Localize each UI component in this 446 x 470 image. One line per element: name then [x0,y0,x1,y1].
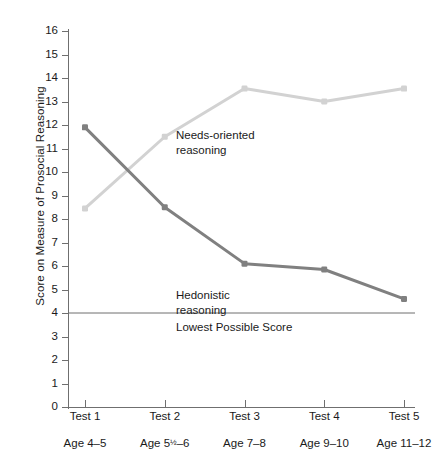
data-point-marker [401,86,407,92]
series-plot [0,0,446,470]
data-point-marker [242,261,248,267]
data-point-marker [162,134,168,140]
data-point-marker [82,205,88,211]
annotation-needs-oriented: Needs-oriented reasoning [176,128,255,157]
data-point-marker [401,296,407,302]
annotation-lowest-possible-score: Lowest Possible Score [176,320,292,335]
prosocial-reasoning-line-chart: Score on Measure of Prosocial Reasoning … [0,0,446,470]
data-point-marker [321,99,327,105]
annotation-hedonistic: Hedonistic reasoning [176,288,230,317]
data-point-marker [242,86,248,92]
data-point-marker [82,124,88,130]
data-point-marker [321,267,327,273]
data-point-marker [162,204,168,210]
